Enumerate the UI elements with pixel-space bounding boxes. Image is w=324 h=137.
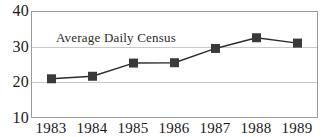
data-point-1984 [88,72,97,81]
data-point-1986 [170,58,179,67]
x-tick-label-1985: 1985 [118,120,149,137]
chart-container: 40 30 20 10 Average Daily Census 1983 19… [0,0,324,137]
x-tick-label-1983: 1983 [36,120,67,137]
x-tick-label-1987: 1987 [200,120,231,137]
x-tick-label-1986: 1986 [159,120,190,137]
x-axis-labels: 1983 1984 1985 1986 1987 1988 1989 [31,119,318,137]
x-tick-label-1984: 1984 [77,120,108,137]
series-line-chart [0,0,324,137]
x-tick-label-1988: 1988 [241,120,272,137]
data-point-1989 [293,39,302,48]
data-point-1987 [211,44,220,53]
data-point-1985 [129,59,138,68]
data-point-1988 [252,33,261,42]
x-tick-label-1989: 1989 [282,120,313,137]
series-markers [47,33,302,83]
data-point-1983 [47,74,56,83]
